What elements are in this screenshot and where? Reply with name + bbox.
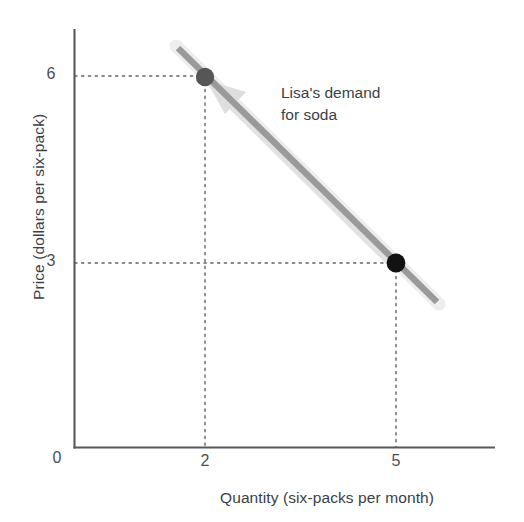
y-axis-title: Price (dollars per six-pack) [30,114,48,300]
x-tick-label-5: 5 [383,452,409,470]
y-tick-label-6: 6 [38,65,64,83]
demand-curve-label-line2: for soda [281,104,380,126]
data-point-a [196,68,214,86]
demand-curve-figure: Price (dollars per six-pack) Quantity (s… [0,0,524,522]
x-axis-title: Quantity (six-packs per month) [220,489,434,507]
chart-canvas [0,0,524,522]
demand-curve-label-line1: Lisa's demand [281,82,380,104]
origin-label: 0 [44,449,70,467]
demand-curve-label: Lisa's demand for soda [281,82,380,126]
y-tick-label-3: 3 [38,252,64,270]
x-tick-label-2: 2 [192,452,218,470]
data-point-b [387,254,406,273]
